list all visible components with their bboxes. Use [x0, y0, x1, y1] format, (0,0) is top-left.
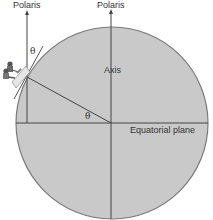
observer-arrowhead-icon [25, 10, 29, 15]
equatorial-plane-label: Equatorial plane [130, 126, 195, 135]
axis-label: Axis [104, 66, 121, 75]
polaris-label-center: Polaris [97, 1, 125, 10]
theta-label-observer: θ [30, 47, 35, 56]
earth-latitude-diagram [0, 0, 213, 220]
polaris-label-left: Polaris [13, 1, 41, 10]
theta-label-center: θ [85, 112, 90, 121]
